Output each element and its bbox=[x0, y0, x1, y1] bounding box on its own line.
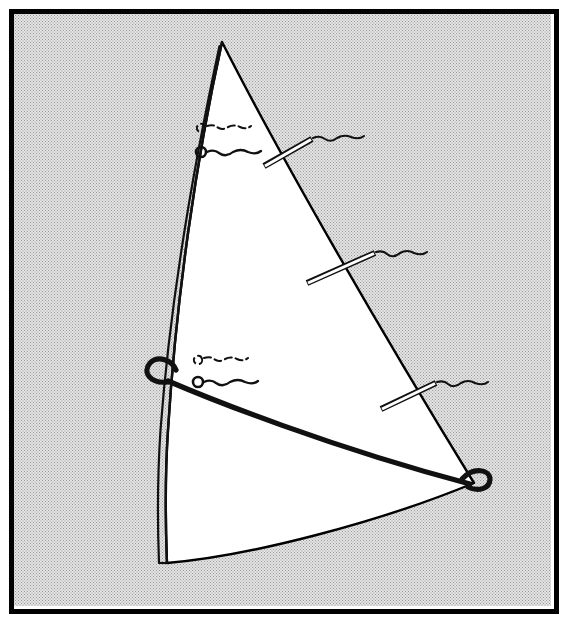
figure-canvas bbox=[0, 0, 571, 626]
sail-technical-drawing bbox=[0, 0, 571, 626]
